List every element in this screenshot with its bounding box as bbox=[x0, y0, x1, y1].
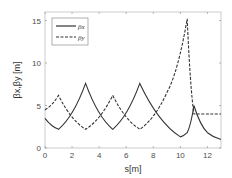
y-axis-label: βx,βy [m] bbox=[12, 62, 22, 99]
legend-label-betay: βy bbox=[77, 34, 85, 42]
x-tick-label: 4 bbox=[97, 151, 102, 160]
y-tick-label: 15 bbox=[32, 17, 41, 26]
x-tick-label: 10 bbox=[176, 151, 185, 160]
y-tick-label: 0 bbox=[37, 144, 42, 153]
legend: βx βy bbox=[52, 18, 88, 45]
x-tick-label: 2 bbox=[70, 151, 75, 160]
beta-function-chart: 024681012051015 βx βy s[m] βx,βy [m] bbox=[0, 0, 232, 178]
y-tick-label: 5 bbox=[37, 102, 42, 111]
x-tick-label: 8 bbox=[151, 151, 156, 160]
x-tick-label: 0 bbox=[43, 151, 48, 160]
x-axis-label: s[m] bbox=[125, 164, 142, 174]
legend-label-betax: βx bbox=[77, 23, 85, 31]
x-tick-label: 6 bbox=[124, 151, 129, 160]
x-tick-label: 12 bbox=[203, 151, 212, 160]
y-tick-label: 10 bbox=[32, 59, 41, 68]
